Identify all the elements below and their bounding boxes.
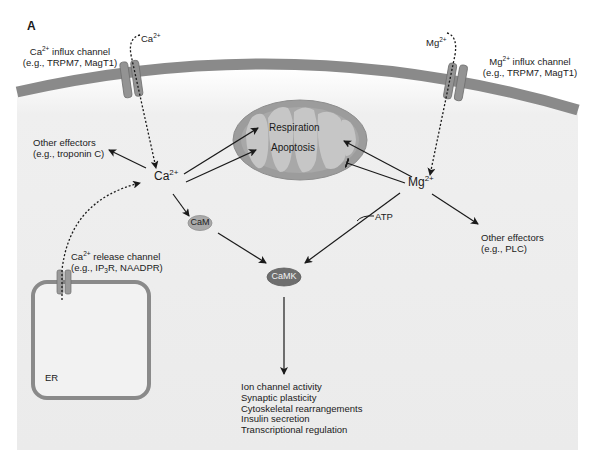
- outcome-item: Synaptic plasticity: [241, 393, 362, 404]
- cam-label: CaM: [188, 217, 212, 227]
- ca-extracellular-label: Ca2+: [141, 33, 161, 44]
- mitochondrion: [233, 100, 367, 180]
- outcome-item: Transcriptional regulation: [241, 425, 362, 436]
- atp-label: ATP: [375, 211, 393, 222]
- camk-label: CaMK: [267, 271, 301, 281]
- er-label: ER: [45, 372, 58, 383]
- other-effectors-ca-label: Other effectors (e.g., troponin C): [33, 137, 104, 159]
- ca-release-channel-label: Ca2+ release channel (e.g., IP3R, NAADPR…: [71, 251, 163, 273]
- respiration-label: Respiration: [269, 122, 320, 133]
- apoptosis-label: Apoptosis: [271, 142, 315, 153]
- mg-extracellular-label: Mg2+: [426, 37, 447, 48]
- mg-influx-channel-label: Mg2+ influx channel (e.g., TRPM7, MagT1): [480, 56, 580, 78]
- panel-label: A: [27, 19, 36, 33]
- ca-cytosolic-label: Ca2+: [154, 169, 178, 183]
- camk-outcomes-list: Ion channel activity Synaptic plasticity…: [241, 382, 362, 436]
- other-effectors-mg-label: Other effectors (e.g., PLC): [481, 232, 544, 254]
- ca-influx-channel-label: Ca2+ influx channel (e.g., TRPM7, MagT1): [22, 46, 118, 68]
- mg-cytosolic-label: Mg2+: [408, 175, 434, 189]
